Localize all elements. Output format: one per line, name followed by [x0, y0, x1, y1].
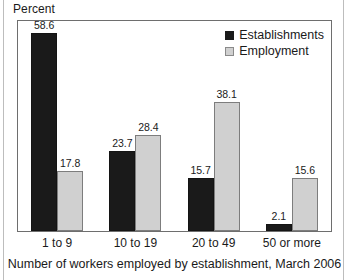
x-tick-label-1: 10 to 19: [96, 236, 174, 250]
bar-establishments-2: [188, 178, 214, 231]
bar-value-label: 15.6: [286, 165, 324, 176]
bar-establishments-0: [31, 33, 57, 231]
page-edge-left: [3, 0, 4, 280]
bar-value-label: 17.8: [51, 158, 89, 169]
y-axis-label: Percent: [13, 2, 55, 16]
bar-employment-1: [135, 135, 161, 231]
chart-figure: Percent 58.617.823.728.415.738.12.115.6 …: [0, 0, 349, 280]
legend-label-employment: Employment: [239, 45, 308, 58]
bar-employment-2: [214, 102, 240, 231]
bar-value-label: 28.4: [129, 122, 167, 133]
legend-item-employment: Employment: [225, 44, 324, 59]
bar-establishments-3: [266, 224, 292, 231]
bar-establishments-1: [109, 151, 135, 231]
page-edge-right: [343, 0, 344, 280]
plot-frame: 58.617.823.728.415.738.12.115.6 Establis…: [17, 20, 332, 232]
x-axis-label: Number of workers employed by establishm…: [0, 257, 349, 272]
legend-label-establishments: Establishments: [239, 29, 324, 42]
x-tick-label-2: 20 to 49: [175, 236, 253, 250]
x-tick-label-0: 1 to 9: [18, 236, 96, 250]
legend-swatch-establishments-icon: [225, 31, 234, 40]
x-tick-label-3: 50 or more: [253, 236, 331, 250]
legend-item-establishments: Establishments: [225, 28, 324, 43]
bar-value-label: 58.6: [25, 20, 63, 31]
chart-legend: Establishments Employment: [225, 28, 324, 60]
legend-swatch-employment-icon: [225, 47, 234, 56]
bar-employment-0: [57, 171, 83, 231]
bar-employment-3: [292, 178, 318, 231]
bar-value-label: 38.1: [208, 89, 246, 100]
